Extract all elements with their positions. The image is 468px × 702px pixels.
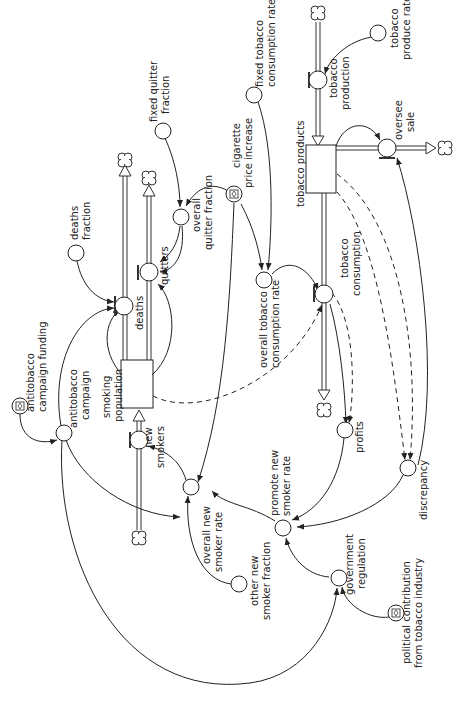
quitters-valve[interactable] <box>138 263 158 281</box>
fixed-tobacco-consumption-rate-node[interactable] <box>246 87 262 103</box>
svg-text:population: population <box>113 369 124 422</box>
svg-text:overall tobacco: overall tobacco <box>258 291 269 368</box>
svg-text:smoker rate: smoker rate <box>213 512 224 572</box>
label-fixed-tobacco-consumption-rate: fixed tobacco consumption rate <box>254 0 277 87</box>
label-deaths-fraction: deaths fraction <box>69 202 92 240</box>
connector <box>336 126 380 146</box>
overall-quitter-fraction-node[interactable] <box>173 209 189 225</box>
fixed-quitter-fraction-node[interactable] <box>155 123 171 139</box>
svg-text:from tobacco industry: from tobacco industry <box>413 558 424 668</box>
cloud-icon <box>118 153 132 167</box>
svg-text:produce rate: produce rate <box>401 0 412 60</box>
svg-text:fixed quitter: fixed quitter <box>148 60 159 122</box>
tobacco-products-stock[interactable] <box>306 145 336 193</box>
svg-text:other new: other new <box>249 556 260 607</box>
label-oversee-sale: oversee sale <box>393 100 416 140</box>
stock-flow-diagram: deaths fraction deaths quitters fixed qu… <box>0 0 468 702</box>
svg-text:sale: sale <box>405 112 416 132</box>
label-tobacco-production: tobacco production <box>328 56 351 110</box>
connector <box>292 438 344 520</box>
label-smoking-population: smoking population <box>101 369 124 422</box>
label-overall-quitter-fraction: overall quitter fraction <box>191 175 214 250</box>
label-tobacco-products: tobacco products <box>295 121 306 207</box>
svg-text:fixed tobacco: fixed tobacco <box>254 20 265 87</box>
promote-new-smoker-rate-node[interactable] <box>275 520 291 536</box>
dashed-connector <box>337 174 412 460</box>
label-fixed-quitter-fraction: fixed quitter fraction <box>148 60 171 122</box>
svg-text:oversee: oversee <box>393 100 404 140</box>
smoking-population-stock[interactable] <box>121 360 153 408</box>
discrepancy-node[interactable] <box>400 460 416 476</box>
cloud-icon <box>311 6 325 20</box>
connector <box>77 261 114 302</box>
svg-text:tobacco products: tobacco products <box>295 121 306 207</box>
svg-text:campaign: campaign <box>80 371 91 420</box>
svg-text:antitobacco: antitobacco <box>68 369 79 428</box>
label-tobacco-consumption: tobacco consumption <box>339 231 362 296</box>
oversee-sale-valve[interactable] <box>378 139 396 158</box>
label-new-smokers: new smokers <box>143 426 166 468</box>
svg-text:profits: profits <box>354 421 365 453</box>
deaths-valve[interactable] <box>115 296 133 316</box>
tobacco-production-valve[interactable] <box>309 71 327 89</box>
svg-text:overall: overall <box>191 198 202 232</box>
svg-text:consumption: consumption <box>351 231 362 296</box>
connector <box>107 310 122 375</box>
svg-text:regulation: regulation <box>356 538 367 589</box>
label-tobacco-produce-rate: tobacco produce rate <box>389 0 412 60</box>
label-government-regulation: government regulation <box>344 534 367 595</box>
label-antitobacco-campaign: antitobacco campaign <box>68 369 91 428</box>
profits-node[interactable] <box>337 422 353 438</box>
svg-text:consumption rate: consumption rate <box>266 0 277 87</box>
svg-text:cigarette: cigarette <box>231 123 242 168</box>
svg-text:consumption rate: consumption rate <box>270 280 281 368</box>
connector <box>330 304 346 424</box>
svg-text:government: government <box>344 534 355 595</box>
cloud-icon <box>438 141 452 155</box>
label-overall-new-smoker-rate: overall new smoker rate <box>201 506 224 572</box>
svg-text:tobacco: tobacco <box>328 58 339 98</box>
svg-text:smoker fraction: smoker fraction <box>261 542 272 620</box>
cigarette-price-increase-node[interactable] <box>226 186 242 202</box>
connector <box>297 475 403 527</box>
svg-text:campaign funding: campaign funding <box>37 322 48 413</box>
svg-text:tobacco: tobacco <box>389 8 400 48</box>
deaths-fraction-node[interactable] <box>68 245 84 261</box>
label-quitters: quitters <box>159 246 170 285</box>
svg-text:overall new: overall new <box>201 506 212 564</box>
svg-text:production: production <box>340 56 351 110</box>
svg-text:discrepancy: discrepancy <box>418 460 429 520</box>
svg-text:smokers: smokers <box>155 426 166 468</box>
svg-text:promote new: promote new <box>269 450 280 516</box>
label-overall-tobacco-consumption-rate: overall tobacco consumption rate <box>258 280 281 368</box>
label-promote-new-smoker-rate: promote new smoker rate <box>269 450 292 516</box>
connector <box>152 284 172 375</box>
svg-text:new: new <box>143 427 154 448</box>
svg-text:smoking: smoking <box>101 376 112 418</box>
connector <box>20 414 57 442</box>
cloud-icon <box>317 403 331 417</box>
svg-text:deaths: deaths <box>134 296 145 330</box>
svg-text:tobacco: tobacco <box>339 238 350 278</box>
connector <box>148 446 186 480</box>
svg-text:fraction: fraction <box>81 202 92 240</box>
label-deaths: deaths <box>134 296 145 330</box>
label-political-contribution: political contribution from tobacco indu… <box>401 558 424 668</box>
label-profits: profits <box>354 421 365 453</box>
connector <box>241 204 262 270</box>
overall-new-smoker-rate-node[interactable] <box>183 479 199 495</box>
connector <box>165 138 180 207</box>
cloud-icon <box>132 531 146 545</box>
dashed-connector <box>332 293 352 423</box>
other-new-smoker-fraction-node[interactable] <box>231 576 247 592</box>
svg-text:antitobacco: antitobacco <box>25 353 36 412</box>
svg-text:deaths: deaths <box>69 206 80 240</box>
label-cigarette-price-increase: cigarette price increase <box>231 118 254 188</box>
tobacco-produce-rate-node[interactable] <box>370 25 386 41</box>
svg-text:quitter fraction: quitter fraction <box>203 175 214 250</box>
cloud-icon <box>142 171 156 185</box>
connector <box>258 102 271 270</box>
deaths-pipe <box>119 165 131 360</box>
label-other-new-smoker-fraction: other new smoker fraction <box>249 542 272 620</box>
svg-text:smoker rate: smoker rate <box>281 456 292 516</box>
